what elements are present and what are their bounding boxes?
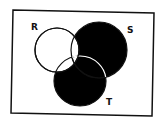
label-r: R <box>31 22 38 32</box>
venn-diagram: R S T <box>0 0 159 122</box>
label-t: T <box>106 97 113 107</box>
label-s: S <box>127 25 133 35</box>
